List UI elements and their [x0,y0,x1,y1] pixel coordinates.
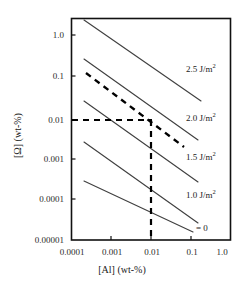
y-tick-label-1: 1.0 [22,30,64,40]
y-tick-label-3: 0.01 [22,115,64,125]
series-label-zero-text: = 0 [196,223,208,233]
series-label-2-5: 2.5 J/m2 [186,64,216,74]
series-label-1-0-exponent: 2 [213,188,216,195]
x-axis-title: [Al] (wt-%) [0,264,244,275]
x-tick-label-1: 0.0001 [60,247,85,257]
y-tick-label-6: 0.00001 [14,235,64,245]
x-tick-label-3: 0.01 [144,247,160,257]
series-label-2-5-text: 2.5 J/m [186,64,213,74]
y-tick-label-4: 0.001 [22,154,64,164]
plot-canvas [0,0,244,289]
y-tick-label-2: 0.1 [22,71,64,81]
x-tick-label-2: 0.001 [102,247,122,257]
series-label-2-5-exponent: 2 [213,62,216,69]
series-label-1-5: 1.5 J/m2 [186,152,216,162]
series-label-1-5-exponent: 2 [213,150,216,157]
x-tick-label-5: 1.0 [216,247,227,257]
y-tick-label-5: 0.0001 [18,194,64,204]
chart-figure: 1.0 0.1 0.01 0.001 0.0001 0.00001 0.0001… [0,0,244,289]
series-label-zero: = 0 [196,223,208,233]
x-tick-label-4: 0.1 [186,247,197,257]
y-axis-title: [Ω] (wt-%) [12,86,23,186]
series-label-1-0: 1.0 J/m2 [186,190,216,200]
series-label-2-0: 2.0 J/m2 [186,113,216,123]
series-label-2-0-text: 2.0 J/m [186,113,213,123]
plot-frame [72,19,231,241]
series-label-1-5-text: 1.5 J/m [186,152,213,162]
series-label-1-0-text: 1.0 J/m [186,190,213,200]
series-label-2-0-exponent: 2 [213,111,216,118]
